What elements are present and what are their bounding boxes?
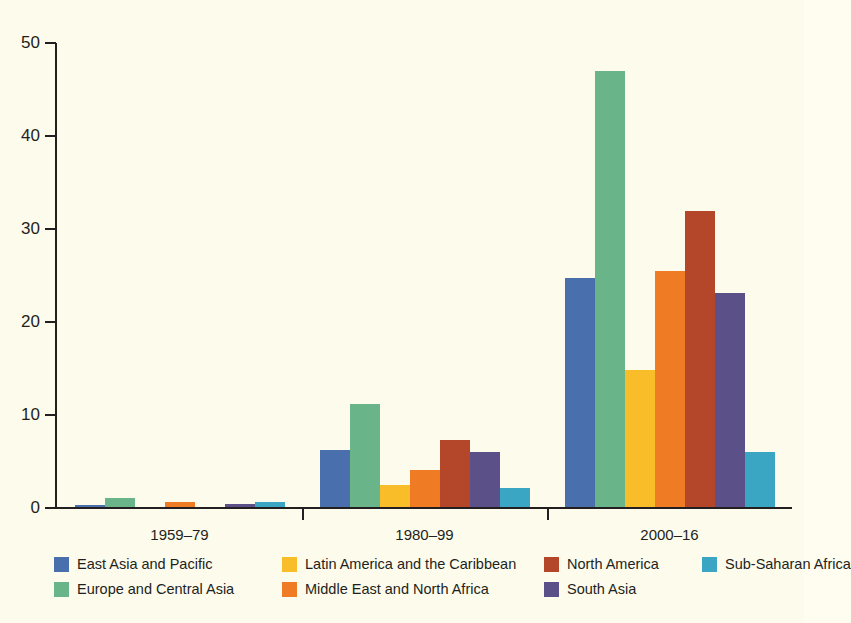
bar	[715, 293, 745, 508]
x-axis-category-label: 1980–99	[365, 527, 485, 543]
x-axis-line	[55, 507, 792, 509]
legend-item: Middle East and North Africa	[282, 582, 489, 597]
legend-item: North America	[544, 557, 659, 572]
legend-label: Middle East and North Africa	[305, 582, 489, 597]
bar	[625, 370, 655, 508]
legend-swatch-icon	[54, 582, 69, 597]
bar	[380, 485, 410, 508]
bar	[500, 488, 530, 508]
bar	[350, 404, 380, 508]
legend-item: Europe and Central Asia	[54, 582, 234, 597]
bar	[685, 211, 715, 508]
bar	[595, 71, 625, 508]
chart-legend: East Asia and PacificEurope and Central …	[54, 557, 754, 615]
bar	[440, 440, 470, 508]
x-axis-category-label: 2000–16	[610, 527, 730, 543]
legend-item: South Asia	[544, 582, 636, 597]
legend-swatch-icon	[544, 557, 559, 572]
legend-swatch-icon	[544, 582, 559, 597]
x-axis-tick	[547, 508, 549, 520]
x-axis-tick	[302, 508, 304, 520]
legend-swatch-icon	[54, 557, 69, 572]
legend-item: Latin America and the Caribbean	[282, 557, 516, 572]
legend-swatch-icon	[282, 582, 297, 597]
legend-label: East Asia and Pacific	[77, 557, 212, 572]
legend-item: East Asia and Pacific	[54, 557, 212, 572]
legend-item: Sub-Saharan Africa	[702, 557, 851, 572]
legend-swatch-icon	[702, 557, 717, 572]
x-axis-category-label: 1959–79	[120, 527, 240, 543]
plot-area: 01020304050 1959–791980–992000–16	[0, 0, 804, 545]
legend-label: South Asia	[567, 582, 636, 597]
bar	[470, 452, 500, 508]
legend-label: Sub-Saharan Africa	[725, 557, 851, 572]
legend-label: Latin America and the Caribbean	[305, 557, 516, 572]
legend-swatch-icon	[282, 557, 297, 572]
bar	[410, 470, 440, 508]
bar	[565, 278, 595, 508]
bar	[655, 271, 685, 508]
legend-label: North America	[567, 557, 659, 572]
bars-layer	[0, 0, 804, 508]
bar	[320, 450, 350, 508]
legend-label: Europe and Central Asia	[77, 582, 234, 597]
bar	[745, 452, 775, 508]
